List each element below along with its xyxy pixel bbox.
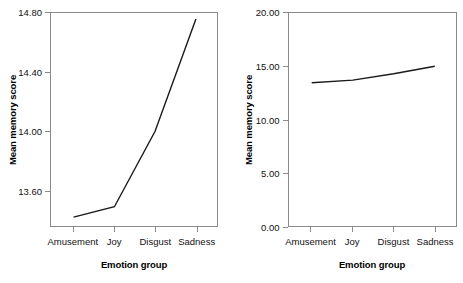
x-tick-mark — [197, 227, 198, 232]
chart-panel-left: Mean memory score 13.6014.0014.4014.80 A… — [0, 0, 232, 283]
x-tick-mark — [73, 227, 74, 232]
x-tick-mark — [155, 227, 156, 232]
x-tick-label: Amusement — [48, 236, 99, 247]
line-series — [51, 13, 217, 226]
plot-area — [288, 12, 457, 227]
x-tick-label: Joy — [345, 236, 360, 247]
x-tick-mark — [393, 227, 394, 232]
series-line-left — [74, 19, 196, 217]
x-tick-label: Sadness — [417, 236, 454, 247]
figure: Mean memory score 13.6014.0014.4014.80 A… — [0, 0, 463, 283]
x-tick-label: Joy — [107, 236, 122, 247]
y-tick-label: 13.60 — [18, 186, 42, 197]
y-tick-label: 5.00 — [261, 168, 280, 179]
y-tick-label: 14.00 — [18, 126, 42, 137]
x-axis-title: Emotion group — [339, 259, 405, 270]
x-tick-mark — [310, 227, 311, 232]
series-line-right — [311, 66, 434, 83]
y-tick-label: 14.80 — [18, 7, 42, 18]
y-tick-label: 0.00 — [261, 222, 280, 233]
y-tick-mark — [283, 227, 288, 228]
y-tick-label: 14.40 — [18, 66, 42, 77]
x-tick-mark — [435, 227, 436, 232]
chart-panel-right: Mean memory score 0.005.0010.0015.0020.0… — [232, 0, 463, 283]
x-tick-label: Disgust — [378, 236, 410, 247]
y-axis-title: Mean memory score — [7, 74, 18, 164]
line-series — [289, 13, 456, 226]
x-tick-label: Amusement — [285, 236, 336, 247]
x-tick-mark — [114, 227, 115, 232]
y-tick-label: 20.00 — [256, 7, 280, 18]
plot-area — [50, 12, 218, 227]
x-tick-mark — [352, 227, 353, 232]
x-tick-label: Disgust — [139, 236, 171, 247]
x-tick-label: Sadness — [178, 236, 215, 247]
y-tick-label: 15.00 — [256, 60, 280, 71]
x-axis-title: Emotion group — [101, 259, 167, 270]
y-tick-label: 10.00 — [256, 114, 280, 125]
y-axis-title: Mean memory score — [242, 74, 253, 164]
